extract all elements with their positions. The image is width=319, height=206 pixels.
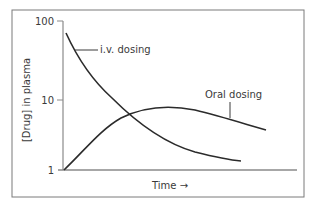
y-axis-label: [Drug] in plasma [21, 58, 32, 142]
y-tick-label-10: 10 [41, 95, 54, 106]
oral-dosing-label: Oral dosing [205, 89, 262, 100]
pharmacokinetics-chart: 100 10 1 [Drug] in plasma Time → i.v. do… [0, 0, 319, 206]
x-axis-label: Time → [151, 180, 188, 191]
y-tick-label-100: 100 [35, 16, 54, 27]
y-tick-label-1: 1 [48, 165, 54, 176]
chart-frame [12, 10, 304, 197]
iv-dosing-label: i.v. dosing [100, 44, 151, 55]
